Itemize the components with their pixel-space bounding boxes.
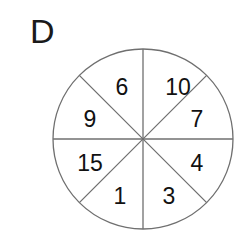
spinner-wheel: 10 7 4 3 1 15 9 6 bbox=[0, 0, 251, 248]
sector-label-15: 15 bbox=[77, 150, 103, 176]
sector-label-7: 7 bbox=[191, 106, 204, 132]
figure-canvas: D 10 7 4 3 1 15 9 6 bbox=[0, 0, 251, 248]
sector-label-10: 10 bbox=[165, 74, 191, 100]
sector-label-3: 3 bbox=[163, 183, 176, 209]
sector-label-1: 1 bbox=[114, 183, 127, 209]
sector-label-6: 6 bbox=[116, 74, 129, 100]
sector-label-9: 9 bbox=[84, 106, 97, 132]
sector-label-4: 4 bbox=[191, 150, 204, 176]
